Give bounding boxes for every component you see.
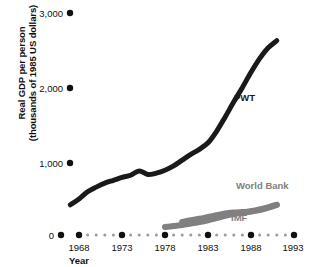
x-axis-major-dot-1973 (119, 232, 125, 238)
y-tick-label-1000: 1,000 (39, 158, 63, 169)
x-axis-minor-dot (241, 234, 244, 237)
y-tick-label-3000: 3,000 (39, 8, 63, 19)
x-axis-major-dot-1993 (291, 232, 297, 238)
series-line-world-bank (182, 205, 277, 222)
x-tick-label-1973: 1973 (111, 242, 132, 253)
series-label-imf: IMF (231, 212, 248, 223)
x-axis-minor-dot (172, 234, 175, 237)
x-axis-minor-dot (189, 234, 192, 237)
x-axis-title: Year (69, 255, 89, 266)
y-axis-dot-2000 (67, 85, 73, 91)
chart-container: Real GDP per person (thousands of 1985 U… (0, 0, 313, 267)
x-axis-minor-dot (284, 234, 287, 237)
x-axis-minor-dot (224, 234, 227, 237)
x-tick-label-1988: 1988 (240, 242, 261, 253)
x-axis-major-dot-1978 (162, 232, 168, 238)
x-axis-minor-dot (215, 234, 218, 237)
x-tick-label-1978: 1978 (154, 242, 175, 253)
y-tick-label-2000: 2,000 (39, 83, 63, 94)
x-axis-minor-dot (258, 234, 261, 237)
x-axis-major-dot-1988 (248, 232, 254, 238)
series-label-pwt: PWT (234, 92, 255, 103)
y-axis-dot-3000 (67, 10, 73, 16)
x-axis-minor-dot (198, 234, 201, 237)
series-lines (70, 41, 276, 227)
x-axis-minor-dot (267, 234, 270, 237)
x-axis-minor-dot (129, 234, 132, 237)
x-axis-major-dot-1968 (76, 232, 82, 238)
x-axis-major-dot-1983 (205, 232, 211, 238)
chart-plot: 3,000 2,000 1,000 0 (0, 0, 313, 267)
x-tick-label-1968: 1968 (68, 242, 89, 253)
y-axis-dot-0 (58, 232, 64, 238)
y-tick-label-0: 0 (49, 230, 54, 241)
x-axis-minor-dot (181, 234, 184, 237)
x-axis-minor-dot (146, 234, 149, 237)
y-axis-dot-1000 (67, 160, 73, 166)
x-tick-label-1983: 1983 (197, 242, 218, 253)
x-axis-dot-track (76, 232, 297, 238)
x-axis-minor-dot (95, 234, 98, 237)
x-axis-minor-dot (275, 234, 278, 237)
series-label-world-bank: World Bank (236, 180, 289, 191)
x-axis-minor-dot (138, 234, 141, 237)
x-axis-minor-dot (155, 234, 158, 237)
x-axis-minor-dot (232, 234, 235, 237)
x-axis-minor-dot (112, 234, 115, 237)
x-axis-minor-dot (86, 234, 89, 237)
x-tick-label-1993: 1993 (282, 242, 303, 253)
x-axis-minor-dot (103, 234, 106, 237)
